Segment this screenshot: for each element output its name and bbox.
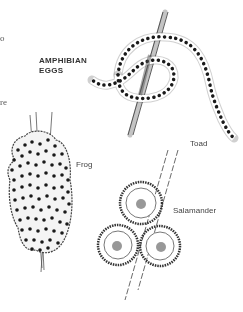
toad-label: Toad [190,139,207,148]
amphibian-eggs-illustration [0,0,243,312]
frog-label: Frog [76,160,92,169]
salamander-egg-cluster-illustration [98,150,180,300]
frog-egg-mass-illustration [8,112,72,272]
salamander-label: Salamander [173,206,216,215]
toad-egg-strand-illustration [92,12,234,138]
